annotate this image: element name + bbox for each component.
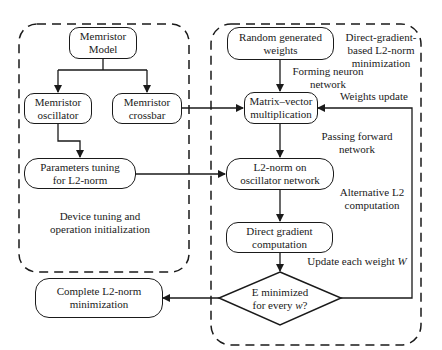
edge-text: Passing forward (312, 130, 402, 143)
box-text: weights (239, 44, 322, 57)
box-text: computation (246, 238, 312, 251)
complete-l2-box: Complete L2-normminimization (35, 278, 163, 318)
memristor-oscillator-box: Memristoroscillator (24, 93, 92, 124)
memristor-model-box: MemristorModel (69, 27, 137, 59)
box-text: for L2-norm (40, 174, 120, 187)
edge-text: Update each weight (307, 255, 397, 267)
box-text: crossbar (124, 109, 170, 122)
edge-text: Weights update (339, 90, 409, 103)
edge-text: computation (335, 199, 409, 212)
box-text: Direct gradient (246, 225, 312, 238)
edge-variable: W (397, 255, 406, 267)
forming-neuron-label: Forming neuron network (283, 65, 373, 91)
region-text: Direct-gradient- (340, 31, 422, 44)
l2-norm-oscillator-box: L2-norm onoscillator network (226, 158, 334, 190)
edge-text: Forming neuron (283, 65, 373, 78)
left-region-label: Device tuning and operation initializati… (30, 210, 170, 236)
box-text: oscillator network (240, 174, 320, 187)
decision-label: E minimized for every w? (240, 286, 320, 312)
decision-text: for every (253, 299, 296, 311)
random-weights-box: Random generatedweights (227, 27, 334, 60)
edge-text: Alternative L2 (335, 186, 409, 199)
region-text: Device tuning and (30, 210, 170, 223)
box-text: Memristor (35, 96, 81, 109)
passing-forward-label: Passing forward network (312, 130, 402, 156)
decision-text-line2: for every w? (240, 299, 320, 312)
direct-gradient-box: Direct gradientcomputation (226, 222, 333, 253)
parameters-tuning-box: Parameters tuningfor L2-norm (24, 158, 136, 189)
box-text: Parameters tuning (40, 161, 120, 174)
box-text: Model (80, 43, 126, 56)
box-text: minimization (57, 298, 142, 311)
memristor-crossbar-box: Memristorcrossbar (112, 93, 182, 124)
box-text: Memristor (80, 30, 126, 43)
box-text: Matrix–vector (250, 95, 313, 108)
matrix-vector-box: Matrix–vectormultiplication (244, 92, 318, 124)
weights-update-label: Weights update (339, 90, 409, 103)
region-text: operation initialization (30, 223, 170, 236)
box-text: Random generated (239, 31, 322, 44)
update-each-weight-label: Update each weight W (307, 255, 407, 268)
box-text: Memristor (124, 96, 170, 109)
decision-text: E minimized (240, 286, 320, 299)
decision-text: ? (303, 299, 308, 311)
edge-text: network (312, 143, 402, 156)
box-text: multiplication (250, 108, 313, 121)
region-text: based L2-norm (340, 44, 422, 57)
box-text: L2-norm on (240, 161, 320, 174)
box-text: Complete L2-norm (57, 285, 142, 298)
box-text: oscillator (35, 109, 81, 122)
decision-variable: w (295, 299, 302, 311)
alternative-l2-label: Alternative L2 computation (335, 186, 409, 212)
